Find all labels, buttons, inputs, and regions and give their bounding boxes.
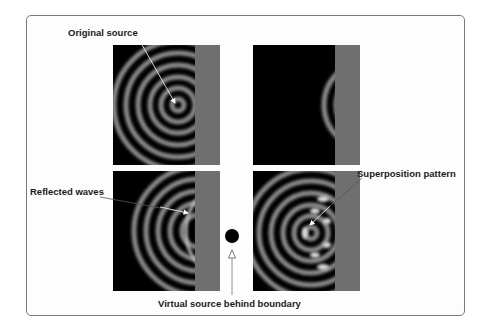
panel-wavefront [253,45,360,165]
panel-original-source [113,45,220,165]
boundary-strip [195,45,220,165]
virtual-source-dot [225,229,239,243]
boundary-strip [335,45,360,165]
label-reflected-waves: Reflected waves [30,186,104,197]
panel-superposition [253,171,360,291]
boundary-strip [195,171,220,291]
label-superposition-pattern: Superposition pattern [357,168,456,179]
panel-reflected-waves [113,171,220,291]
boundary-strip [335,171,360,291]
diagram-frame [26,15,465,316]
label-original-source: Original source [68,27,138,38]
label-virtual-source: Virtual source behind boundary [158,298,301,309]
